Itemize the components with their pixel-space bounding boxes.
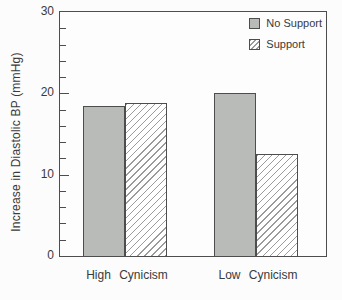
y-minor-tick: [60, 191, 66, 192]
y-minor-tick: [60, 61, 66, 62]
bar-chart-figure: Increase in Diastolic BP (mmHg) No Suppo…: [0, 0, 342, 300]
legend-swatch-support: [249, 39, 260, 50]
y-axis-title: Increase in Diastolic BP (mmHg): [9, 52, 23, 231]
x-category-label-high-cynicism: High Cynicism: [67, 268, 187, 282]
legend-label-support: Support: [266, 39, 305, 50]
legend-item-no-support: No Support: [249, 18, 322, 29]
y-minor-tick: [60, 240, 66, 241]
x-category-label-low-cynicism: Low Cynicism: [198, 268, 318, 282]
legend-item-support: Support: [249, 39, 322, 50]
bar-low-cynicism-support: [256, 154, 298, 256]
legend: No Support Support: [249, 18, 322, 50]
y-minor-tick: [60, 207, 66, 208]
y-tick-label-20: 20: [26, 85, 54, 100]
legend-label-no-support: No Support: [266, 18, 322, 29]
bar-high-cynicism-no-support: [83, 106, 125, 256]
y-tick-label-30: 30: [26, 4, 54, 19]
y-minor-tick: [60, 77, 66, 78]
y-tick-label-0: 0: [26, 248, 54, 263]
y-minor-tick: [60, 142, 66, 143]
y-major-tick: [60, 93, 69, 94]
y-minor-tick: [60, 45, 66, 46]
y-major-tick: [60, 175, 69, 176]
y-minor-tick: [60, 28, 66, 29]
y-minor-tick: [60, 158, 66, 159]
y-tick-label-10: 10: [26, 167, 54, 182]
bar-high-cynicism-support: [125, 103, 167, 256]
legend-swatch-no-support: [249, 18, 260, 29]
y-minor-tick: [60, 223, 66, 224]
y-minor-tick: [60, 126, 66, 127]
y-minor-tick: [60, 110, 66, 111]
bar-low-cynicism-no-support: [214, 93, 256, 256]
plot-area: No Support Support: [59, 11, 327, 257]
